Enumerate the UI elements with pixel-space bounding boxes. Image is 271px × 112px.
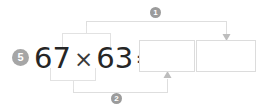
step-one-path xyxy=(87,22,227,35)
right-operand: 63 xyxy=(96,41,133,75)
tens-product-box[interactable] xyxy=(139,40,195,72)
step-two-badge: 2 xyxy=(111,93,122,104)
step-one-badge: 1 xyxy=(150,7,161,18)
multiplication-operator-icon: × xyxy=(74,46,93,72)
problem-index-badge: 5 xyxy=(12,49,29,66)
step-two-arrowhead-icon xyxy=(164,71,172,78)
worksheet-problem-canvas: 5 67 × 63 = 1 2 xyxy=(0,0,271,112)
left-operand: 67 xyxy=(34,41,71,75)
ones-product-box[interactable] xyxy=(196,40,256,72)
